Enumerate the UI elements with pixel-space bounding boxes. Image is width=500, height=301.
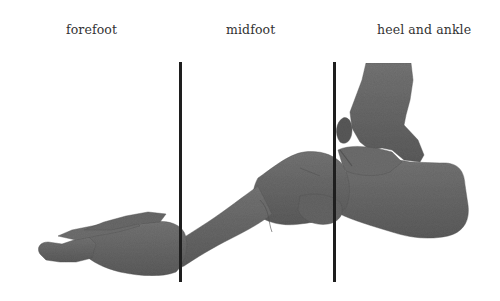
divider-midfoot-heel: [333, 62, 336, 282]
divider-forefoot-midfoot: [179, 62, 182, 282]
foot-skeleton-illustration: [0, 0, 500, 301]
fibula-bone: [336, 118, 352, 144]
phalanges-bones: [38, 236, 96, 262]
